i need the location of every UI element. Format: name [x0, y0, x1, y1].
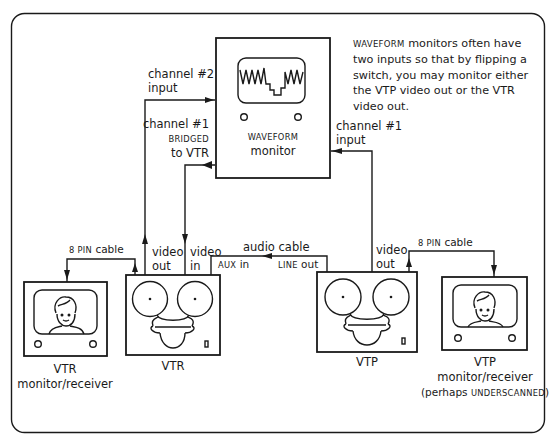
vtp-monitor-receiver: [442, 277, 527, 350]
vtr-video-in-line1: video: [190, 245, 221, 259]
arrow-left-icon: [202, 161, 212, 169]
waveform-label: monitor: [251, 144, 296, 158]
face-icon: [468, 292, 503, 327]
vtr-video-out-line2: out: [152, 259, 171, 273]
face-icon: [49, 297, 84, 334]
vtp-caption: VTP: [356, 355, 378, 369]
audio-cable-label: audio cable: [243, 240, 309, 254]
arrow-right-icon: [205, 97, 214, 103]
arrow-down-icon: [182, 234, 188, 244]
vtr-caption: VTR: [162, 359, 185, 373]
channel2-label-line2: input: [148, 81, 178, 95]
channel1-input-line1: channel #1: [336, 119, 402, 133]
vtp-video-out-line1: video: [376, 243, 407, 257]
vtp-monitor-caption-line3: (perhaps UNDERSCANNED): [421, 386, 549, 398]
vtp-monitor-caption-line2: monitor/receiver: [437, 370, 533, 384]
line-out-label: LINE out: [278, 258, 318, 270]
arrow-left-icon: [332, 148, 342, 154]
waveform-trace-icon: [240, 68, 303, 95]
vtr-video-in-line2: in: [190, 259, 200, 273]
note-smallcaps-word: WAVEFORM: [353, 39, 405, 49]
arrow-up-icon: [132, 263, 138, 272]
vtp-monitor-caption-line1: VTP: [474, 355, 496, 369]
tape-path-icon: [344, 314, 390, 345]
vtr-deck: [126, 275, 220, 355]
vtp-8pin-cable: [406, 251, 497, 277]
aux-in-label: AUX in: [218, 258, 249, 270]
channel1-input-wire: [331, 148, 372, 272]
vtr-8pin-cable-label: 8 PIN cable: [69, 243, 124, 255]
indicator-light: [205, 341, 208, 347]
arrow-up-icon: [142, 234, 148, 244]
vtr-video-out-line1: video: [152, 245, 183, 259]
indicator-light: [402, 338, 405, 344]
arrow-up-icon: [406, 258, 412, 267]
knob-left: [241, 114, 248, 121]
vtp-deck: [317, 272, 417, 352]
vtr-monitor-caption-line2: monitor/receiver: [17, 377, 113, 391]
channel1-bridged-line2: BRIDGED: [169, 134, 209, 144]
vtr-monitor-caption-line1: VTR: [54, 362, 77, 376]
knob-left: [35, 341, 42, 348]
waveform-label-smallcaps: WAVEFORM: [248, 132, 298, 142]
arrow-down-icon: [491, 265, 497, 275]
arrow-down-icon: [64, 270, 70, 280]
channel2-label-line1: channel #2: [148, 67, 214, 81]
vtp-8pin-cable-label: 8 PIN cable: [418, 236, 473, 248]
vtr-monitor-receiver: [24, 282, 107, 356]
knob-right: [509, 335, 516, 342]
tape-path-icon: [151, 315, 194, 348]
knob-right: [90, 341, 97, 348]
waveform-monitor: WAVEFORM monitor: [216, 38, 330, 178]
channel1-bridged-line1: channel #1: [143, 117, 209, 131]
channel1-input-line2: input: [336, 133, 366, 147]
vtp-video-out-line2: out: [376, 257, 395, 271]
knob-right: [295, 114, 302, 121]
explanatory-note: WAVEFORM monitors often have two inputs …: [353, 36, 543, 114]
knob-left: [455, 335, 462, 342]
channel1-bridged-line3: to VTR: [171, 146, 209, 160]
